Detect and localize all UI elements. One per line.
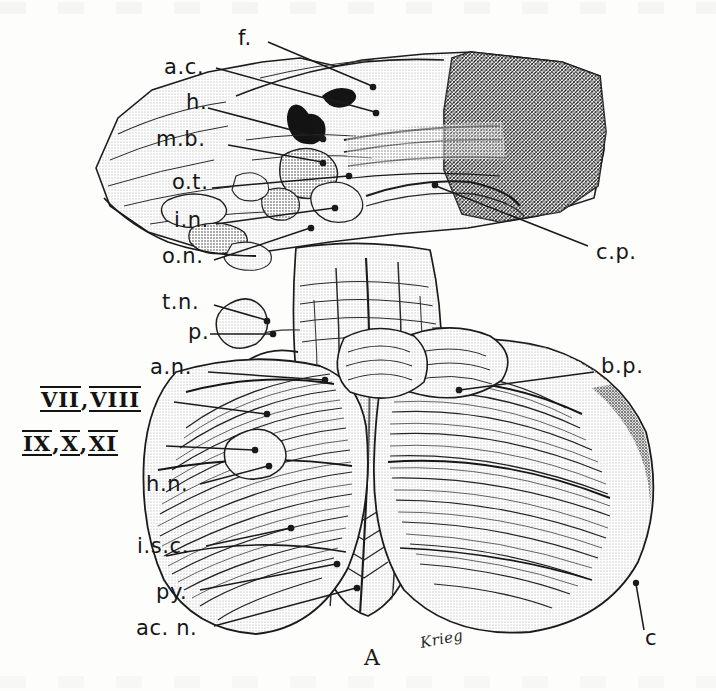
label-f: f. bbox=[238, 28, 252, 49]
roman-sep-3: , bbox=[80, 431, 88, 456]
label-mb: m.b. bbox=[156, 129, 206, 150]
label-cp: c.p. bbox=[596, 242, 637, 263]
label-an: a.n. bbox=[150, 357, 192, 378]
roman-viii: VIII bbox=[89, 386, 141, 412]
anatomical-plate: f. a.c. h. m.b. o.t. i.n. o.n. t.n. p. a… bbox=[0, 0, 716, 691]
label-p: p. bbox=[188, 322, 209, 343]
label-py: py. bbox=[156, 582, 187, 603]
label-h: h. bbox=[186, 92, 207, 113]
roman-xi: XI bbox=[88, 430, 118, 456]
label-acn: ac. n. bbox=[136, 618, 197, 639]
label-hn: h.n. bbox=[146, 474, 188, 495]
specimen-illustration bbox=[0, 0, 716, 691]
cerebellum-left bbox=[130, 348, 368, 660]
label-ot: o.t. bbox=[172, 172, 208, 193]
label-vii-viii: VII,VIII bbox=[40, 386, 141, 412]
roman-ix: IX bbox=[22, 430, 52, 456]
label-ac: a.c. bbox=[164, 57, 204, 78]
panel-label: A bbox=[364, 645, 380, 670]
roman-vii: VII bbox=[40, 386, 81, 412]
midbrain-block bbox=[96, 52, 606, 270]
roman-x: X bbox=[60, 430, 79, 456]
roman-sep-2: , bbox=[52, 431, 60, 456]
label-c: c bbox=[645, 628, 657, 649]
label-ix-x-xi: IX,X,XI bbox=[22, 430, 118, 456]
label-on: o.n. bbox=[162, 246, 204, 267]
label-in: i.n. bbox=[174, 210, 209, 231]
label-isc: i.s.c. bbox=[137, 536, 189, 557]
vermis bbox=[337, 328, 427, 398]
label-tn: t.n. bbox=[162, 292, 199, 313]
label-bp: b.p. bbox=[601, 356, 643, 377]
roman-sep-1: , bbox=[81, 387, 89, 412]
